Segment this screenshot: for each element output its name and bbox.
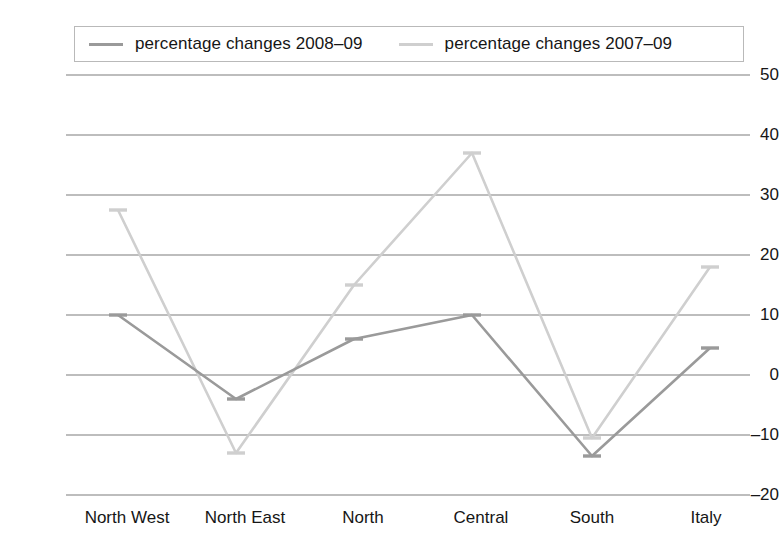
plot-area: 50 40 30 20 10 0 –10 –20 North West Nort… [0, 0, 779, 554]
series-line [118, 153, 710, 453]
series-2007-09-group [109, 153, 719, 453]
chart-container: percentage changes 2008–09 percentage ch… [0, 0, 779, 554]
gridlines-group [66, 75, 750, 495]
chart-svg [0, 0, 779, 554]
